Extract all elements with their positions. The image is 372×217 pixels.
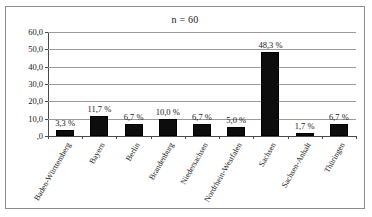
bar-value-label: 1,7 % (295, 121, 315, 131)
x-axis-category-label: Niedersachsen (179, 141, 210, 186)
y-axis-tick (45, 119, 48, 120)
x-axis-tick (82, 136, 83, 139)
bar (193, 124, 211, 136)
y-axis-tick (45, 67, 48, 68)
x-axis-category-label: Berlin (124, 141, 142, 163)
x-axis-tick (185, 136, 186, 139)
gridline (48, 67, 356, 68)
bar-value-label: 11,7 % (87, 104, 111, 114)
bar-value-label: 6,7 % (124, 112, 144, 122)
bar (159, 119, 177, 136)
x-axis-tick (322, 136, 323, 139)
y-axis-tick-label: ,0 (37, 131, 43, 141)
x-axis-category-label: Sachsen-Anhalt (279, 141, 312, 189)
x-axis-category-label: Bayern (88, 141, 107, 166)
x-axis-tick (48, 136, 49, 139)
x-axis-category-label: Nordrhein-Westfalen (203, 141, 244, 204)
x-axis-category-label: Baden-Württemberg (32, 141, 73, 202)
bar-value-label: 5,0 % (226, 115, 246, 125)
gridline (48, 101, 356, 102)
bar (56, 130, 74, 136)
y-axis-tick-label: 50,0 (28, 44, 43, 54)
bar (227, 127, 245, 136)
bar-value-label: 6,7 % (192, 112, 212, 122)
y-axis-tick (45, 49, 48, 50)
bar-value-label: 6,7 % (329, 112, 349, 122)
gridline (48, 136, 356, 137)
bar-value-label: 3,3 % (55, 118, 75, 128)
bar-value-label: 10,0 % (156, 107, 180, 117)
bar (261, 52, 279, 136)
gridline (48, 32, 356, 33)
plot-area: 60,050,040,030,020,010,0,0 3,3 %11,7 %6,… (48, 32, 356, 136)
x-axis-tick (116, 136, 117, 139)
x-axis-tick (288, 136, 289, 139)
x-axis-tick (356, 136, 357, 139)
chart-frame: n = 60 60,050,040,030,020,010,0,0 3,3 %1… (5, 6, 365, 209)
x-axis-category-label: Thüringen (322, 141, 346, 174)
bar (296, 133, 314, 136)
y-axis-tick-label: 10,0 (28, 114, 43, 124)
gridline (48, 84, 356, 85)
y-axis-tick (45, 84, 48, 85)
x-axis-category-label: Sachsen (257, 141, 278, 168)
chart-title: n = 60 (6, 14, 364, 25)
y-axis-tick-label: 20,0 (28, 96, 43, 106)
y-axis-tick-label: 30,0 (28, 79, 43, 89)
gridline (48, 49, 356, 50)
x-axis-tick (151, 136, 152, 139)
x-axis-tick (219, 136, 220, 139)
x-axis-category-label: Brandenburg (147, 141, 176, 182)
bar (125, 124, 143, 136)
bar (330, 124, 348, 136)
bar (90, 116, 108, 136)
y-axis-tick-label: 60,0 (28, 27, 43, 37)
x-axis-tick (253, 136, 254, 139)
y-axis-tick (45, 32, 48, 33)
bar-value-label: 48,3 % (258, 40, 282, 50)
y-axis-tick (45, 101, 48, 102)
y-axis-tick-label: 40,0 (28, 62, 43, 72)
